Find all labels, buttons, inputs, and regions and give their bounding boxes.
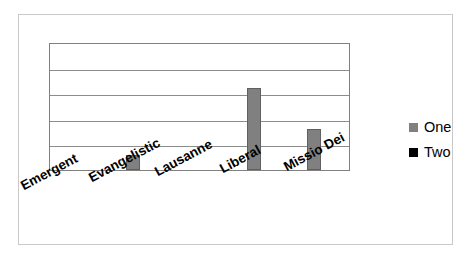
plot-area bbox=[49, 43, 350, 171]
bar-group bbox=[291, 44, 351, 170]
legend-swatch-one-icon bbox=[409, 123, 418, 132]
bar-group bbox=[50, 44, 110, 170]
legend-item-two[interactable]: Two bbox=[409, 141, 471, 163]
chart-area: One Two bbox=[18, 14, 453, 245]
legend-label-one: One bbox=[424, 120, 451, 135]
legend-label-two: Two bbox=[424, 145, 451, 160]
bar-liberal-one[interactable] bbox=[247, 88, 261, 170]
bar-series-group bbox=[50, 44, 349, 170]
legend-item-one[interactable]: One bbox=[409, 116, 471, 138]
bar-group bbox=[231, 44, 291, 170]
bar-group bbox=[110, 44, 170, 170]
chart-legend: One Two bbox=[409, 116, 471, 166]
bar-evangelistic-one[interactable] bbox=[126, 155, 140, 170]
legend-swatch-two-icon bbox=[409, 148, 418, 157]
bar-missio-dei-one[interactable] bbox=[307, 129, 321, 170]
bar-group bbox=[170, 44, 230, 170]
